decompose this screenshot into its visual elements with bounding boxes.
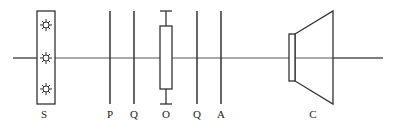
label-a: A xyxy=(217,108,225,120)
label-o: O xyxy=(162,108,170,120)
light-source-s xyxy=(13,11,55,104)
sample-holder-o xyxy=(160,11,172,104)
label-c: C xyxy=(309,108,316,120)
label-p: P xyxy=(107,108,113,120)
label-q2: Q xyxy=(193,108,201,120)
label-q1: Q xyxy=(130,108,138,120)
label-s: S xyxy=(41,108,47,120)
